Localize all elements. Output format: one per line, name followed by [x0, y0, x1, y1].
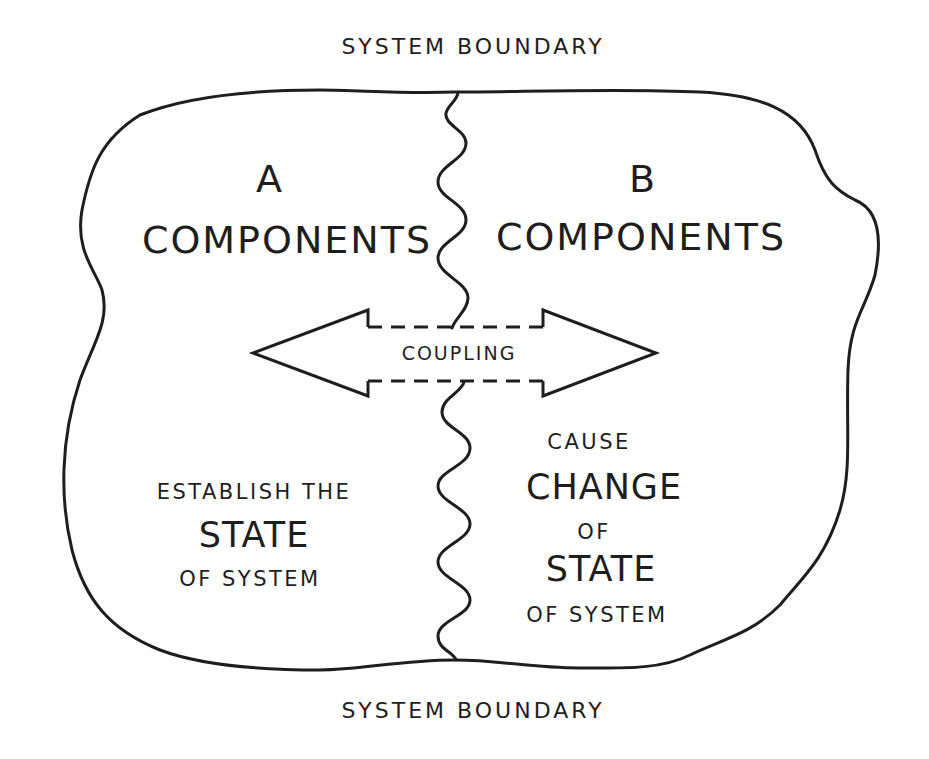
region-b-desc-line2: CHANGE	[526, 470, 682, 505]
region-a-desc-line1: ESTABLISH THE	[157, 482, 352, 503]
region-b-letter: B	[629, 160, 657, 198]
region-b-desc-line3: OF	[577, 522, 611, 543]
region-a-letter: A	[256, 160, 284, 198]
divider-upper	[438, 92, 468, 328]
coupling-arrow-right-head	[543, 310, 656, 396]
region-a-desc-line2: STATE	[199, 518, 310, 553]
region-a-title: COMPONENTS	[142, 221, 432, 259]
region-b-desc-line5: OF SYSTEM	[526, 605, 668, 626]
region-b-title: COMPONENTS	[496, 218, 786, 256]
coupling-label: COUPLING	[402, 344, 517, 363]
system-diagram: SYSTEM BOUNDARY A COMPONENTS B COMPONENT…	[0, 0, 929, 759]
coupling-arrow-left-head	[253, 310, 368, 396]
region-b-desc-line4: STATE	[546, 552, 657, 587]
diagram-shapes	[0, 0, 929, 759]
region-a-desc-line3: OF SYSTEM	[179, 569, 321, 590]
bottom-boundary-label: SYSTEM BOUNDARY	[341, 700, 604, 722]
region-b-desc-line1: CAUSE	[547, 432, 631, 453]
top-boundary-label: SYSTEM BOUNDARY	[341, 36, 604, 58]
divider-lower	[438, 382, 470, 660]
